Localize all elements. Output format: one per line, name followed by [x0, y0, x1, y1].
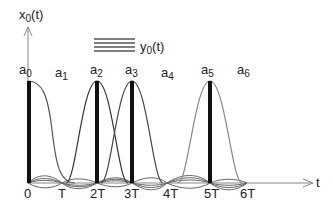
tick-6T: 6T — [240, 187, 255, 200]
coef-a4: a4 — [161, 66, 174, 82]
x-axis-label: t — [316, 176, 320, 189]
impulse-3T — [130, 81, 134, 183]
coef-a2: a2 — [90, 63, 103, 79]
tick-3T: 3T — [124, 187, 139, 200]
legend-label: y0(t) — [140, 40, 164, 56]
tick-T: T — [58, 187, 66, 200]
tick-4T: 4T — [163, 187, 178, 200]
legend-lines — [94, 39, 135, 51]
impulse-bars — [27, 81, 212, 183]
coef-a1: a1 — [55, 66, 68, 82]
diagram-canvas — [0, 0, 333, 210]
impulse-5T — [208, 81, 212, 183]
coef-a6: a6 — [237, 63, 250, 79]
tick-0: 0 — [24, 187, 31, 200]
coef-a0: a0 — [19, 63, 32, 79]
pulse-a0 — [28, 81, 75, 183]
y-axis-label: x0(t) — [19, 8, 43, 24]
coef-a3: a3 — [125, 63, 138, 79]
coef-a5: a5 — [201, 63, 214, 79]
tick-2T: 2T — [90, 187, 105, 200]
impulse-0 — [27, 81, 31, 183]
impulse-2T — [95, 81, 99, 183]
tick-5T: 5T — [204, 187, 219, 200]
